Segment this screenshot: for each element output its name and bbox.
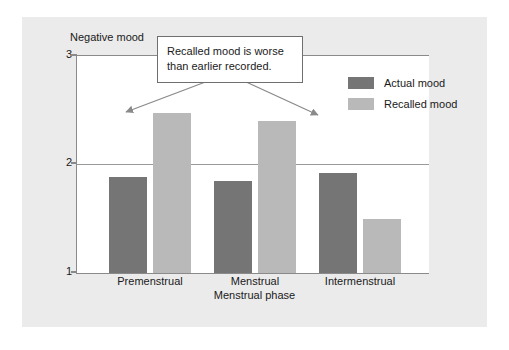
chart-legend: Actual mood Recalled mood: [348, 77, 457, 119]
y-axis-title: Negative mood: [70, 31, 144, 43]
bar-premenstrual-actual: [109, 177, 147, 273]
figure-panel: Negative mood 3 2 1 Premenstrual Menstru…: [22, 17, 487, 327]
legend-swatch-recalled-icon: [348, 98, 374, 110]
x-axis-label-intermenstrual: Intermenstrual: [290, 275, 430, 287]
annotation-text: Recalled mood is worse than earlier reco…: [167, 44, 294, 74]
legend-label-actual: Actual mood: [384, 77, 445, 89]
legend-label-recalled: Recalled mood: [384, 98, 457, 110]
y-axis-tick-2: 2: [50, 156, 72, 168]
legend-item-actual: Actual mood: [348, 77, 457, 89]
bar-menstrual-recalled: [258, 121, 296, 273]
annotation-line-1: Recalled mood is worse: [167, 45, 284, 57]
x-axis-title: Menstrual phase: [22, 289, 487, 301]
bar-chart: Negative mood 3 2 1 Premenstrual Menstru…: [22, 17, 487, 327]
y-axis-tick-1: 1: [50, 265, 72, 277]
bar-intermenstrual-recalled: [363, 219, 401, 273]
legend-swatch-actual-icon: [348, 77, 374, 89]
bar-intermenstrual-actual: [319, 173, 357, 273]
gridline-value-2: [77, 164, 429, 165]
bar-menstrual-actual: [214, 181, 252, 273]
annotation-line-2: than earlier recorded.: [167, 60, 272, 72]
legend-item-recalled: Recalled mood: [348, 98, 457, 110]
y-axis-tick-3: 3: [50, 48, 72, 60]
annotation-callout: Recalled mood is worse than earlier reco…: [157, 36, 303, 83]
bar-premenstrual-recalled: [153, 113, 191, 273]
